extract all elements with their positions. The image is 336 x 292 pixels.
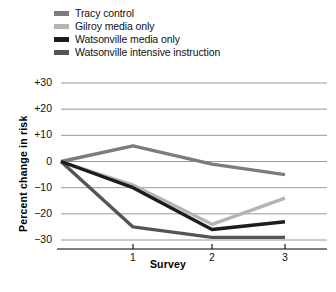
data-series-line [61,146,285,175]
x-axis-title: Survey [0,258,336,270]
x-axis-tick-group [133,244,285,249]
y-axis-title: Percent change in risk [17,116,29,232]
figure-container: Tracy control Gilroy media only Watsonvi… [0,0,336,292]
y-axis-tick-label: +30 [18,76,52,88]
data-series-group [61,146,285,238]
y-axis-tick-label: −30 [18,233,52,245]
chart-svg [0,0,336,292]
y-axis-tick-label: +20 [18,102,52,114]
plot-area: +30+20+100−10−20−30 123 [0,0,336,292]
caption-fragment [0,286,336,292]
